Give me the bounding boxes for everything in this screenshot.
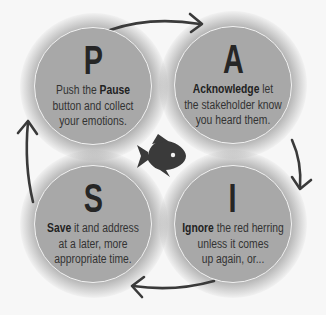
arrow-s-to-p [27, 122, 33, 202]
step-keyword: Save [47, 221, 71, 235]
step-text: your emotions. [59, 114, 127, 128]
step-letter: I [229, 178, 237, 218]
pasi-diagram: P Push the Pause button and collect your… [0, 0, 326, 315]
step-text: Push the [56, 83, 100, 97]
step-letter: A [223, 39, 244, 79]
step-text: let [259, 82, 273, 96]
step-text: at a later, more [59, 237, 128, 251]
step-circle-pause: P Push the Pause button and collect your… [34, 27, 152, 145]
step-circle-ignore: I Ignore the red herring unless it comes… [174, 165, 292, 283]
step-description: Save it and address at a later, more app… [37, 221, 149, 268]
step-keyword: Acknowledge [193, 82, 260, 96]
fish-icon [137, 134, 186, 177]
arrow-p-to-a [110, 21, 200, 30]
step-letter: P [83, 40, 102, 80]
step-letter: S [83, 178, 102, 218]
step-text: the red herring [214, 221, 284, 235]
step-text: unless it comes [197, 237, 268, 251]
step-text: it and address [71, 221, 139, 235]
step-circle-acknowledge: A Acknowledge let the stakeholder know y… [174, 26, 292, 144]
step-keyword: Ignore [182, 221, 214, 235]
step-circle-save: S Save it and address at a later, more a… [34, 165, 152, 283]
step-text: appropriate time. [54, 252, 131, 266]
step-text: up again, or... [202, 252, 265, 266]
step-description: Ignore the red herring unless it comes u… [177, 221, 289, 268]
step-text: the stakeholder know [184, 98, 282, 112]
step-keyword: Pause [100, 83, 130, 97]
step-description: Acknowledge let the stakeholder know you… [177, 82, 289, 129]
step-text: button and collect [53, 99, 134, 113]
step-description: Push the Pause button and collect your e… [37, 83, 149, 130]
step-text: you heard them. [196, 113, 271, 127]
arrow-i-to-s [133, 281, 214, 288]
